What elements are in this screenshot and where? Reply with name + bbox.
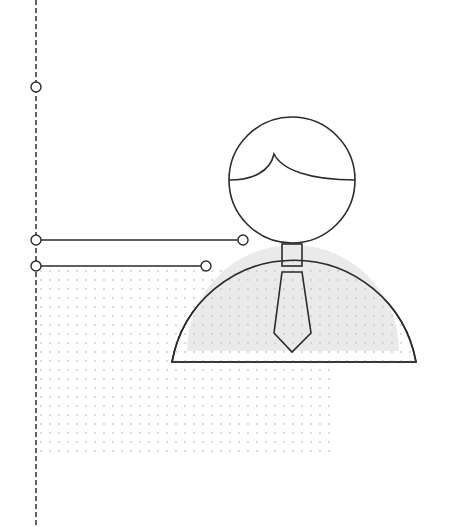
timeline-node-3 (31, 261, 41, 271)
shoulder-node-lower (201, 261, 211, 271)
timeline-node-1 (31, 82, 41, 92)
person-illustration (0, 0, 449, 527)
timeline-node-2 (31, 235, 41, 245)
shoulder-node-upper (238, 235, 248, 245)
